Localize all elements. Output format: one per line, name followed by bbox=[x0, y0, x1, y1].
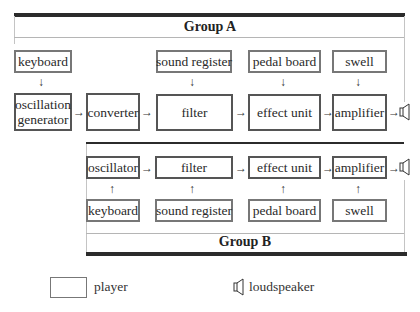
group-a-converter: converter bbox=[86, 93, 140, 131]
right-arrow-icon: → bbox=[141, 162, 153, 174]
group-b-oscillator: oscillator bbox=[86, 156, 140, 179]
group-a-player-swell: swell bbox=[332, 50, 387, 73]
down-arrow-icon: ↓ bbox=[355, 76, 361, 88]
group-b-amplifier: amplifier bbox=[332, 156, 387, 179]
legend-player-label: player bbox=[94, 279, 128, 295]
group-a-effect-unit: effect unit bbox=[248, 94, 321, 131]
down-arrow-icon: ↓ bbox=[189, 76, 195, 88]
group-a-right-border bbox=[404, 16, 405, 102]
up-arrow-icon: ↑ bbox=[280, 183, 286, 195]
group-a-title: Group A bbox=[150, 19, 270, 35]
loudspeaker-icon bbox=[399, 158, 411, 176]
group-a-player-pedal-board: pedal board bbox=[248, 50, 321, 73]
down-arrow-icon: ↓ bbox=[38, 76, 44, 88]
legend-loudspeaker-icon bbox=[233, 278, 245, 296]
legend-loudspeaker-label: loudspeaker bbox=[249, 279, 314, 295]
legend-player-swatch bbox=[50, 277, 87, 298]
up-arrow-icon: ↑ bbox=[355, 183, 361, 195]
group-b-title: Group B bbox=[185, 234, 305, 250]
group-a-left-border bbox=[14, 16, 15, 44]
group-a-filter: filter bbox=[156, 94, 233, 131]
group-a-title-rule bbox=[14, 37, 404, 38]
up-arrow-icon: ↑ bbox=[109, 183, 115, 195]
down-arrow-icon: ↓ bbox=[280, 76, 286, 88]
right-arrow-icon: → bbox=[141, 106, 153, 118]
right-arrow-icon: → bbox=[235, 162, 247, 174]
group-a-amplifier: amplifier bbox=[332, 94, 387, 131]
group-b-right-border bbox=[404, 180, 405, 256]
oscillation-generator-line2: generator bbox=[18, 112, 69, 127]
group-b-player-swell: swell bbox=[332, 199, 387, 222]
group-a-top-rule bbox=[14, 13, 405, 17]
group-b-player-sound-register: sound register bbox=[155, 199, 233, 222]
right-arrow-icon: → bbox=[73, 106, 85, 118]
group-a-player-sound-register: sound register bbox=[156, 50, 232, 73]
up-arrow-icon: ↑ bbox=[189, 183, 195, 195]
right-arrow-icon: → bbox=[235, 106, 247, 118]
oscillation-generator-line1: oscillation bbox=[15, 97, 71, 112]
group-b-player-pedal-board: pedal board bbox=[248, 199, 321, 222]
group-b-filter: filter bbox=[155, 156, 233, 179]
group-b-player-keyboard: keyboard bbox=[86, 199, 140, 222]
group-b-top-rule bbox=[86, 142, 404, 144]
group-b-bottom-rule bbox=[86, 252, 407, 256]
group-a-player-keyboard: keyboard bbox=[14, 50, 72, 73]
loudspeaker-icon bbox=[399, 103, 411, 121]
group-b-effect-unit: effect unit bbox=[248, 156, 321, 179]
group-a-oscillation-generator: oscillation generator bbox=[14, 93, 72, 131]
